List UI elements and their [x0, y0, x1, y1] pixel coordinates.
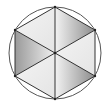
vertex-dot [14, 29, 16, 31]
vertex-dot [94, 29, 96, 31]
vertex-dot [54, 6, 56, 8]
center-dot [54, 52, 57, 55]
vertex-dot [54, 98, 56, 100]
vertex-dot [94, 75, 96, 77]
hexagon-circle-diagram [0, 0, 105, 104]
vertex-dot [14, 75, 16, 77]
